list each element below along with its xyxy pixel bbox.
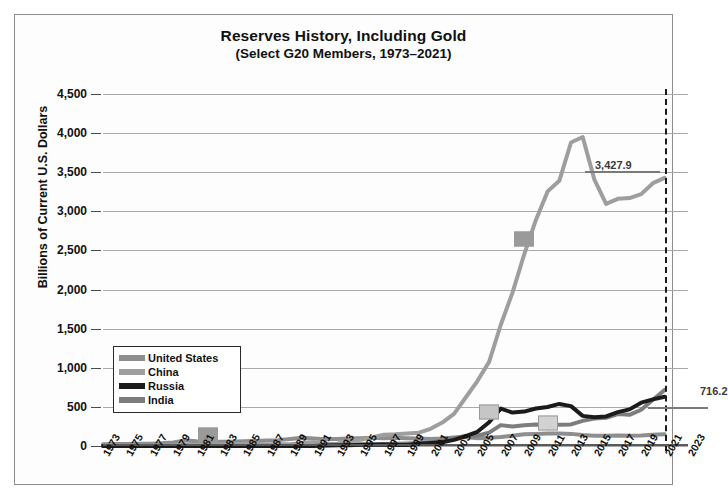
chart-title-block: Reserves History, Including Gold (Select… [15, 27, 672, 62]
y-axis-tick-label: 3,000 [57, 204, 87, 218]
data-point-marker [479, 404, 499, 419]
x-axis-tick-label: 2023 [685, 432, 707, 458]
page-title: Reserves History, Including Gold [15, 27, 672, 45]
y-axis-tick [91, 133, 101, 134]
y-axis-tick-label: 1,000 [57, 361, 87, 375]
legend-item[interactable]: Russia [119, 379, 235, 392]
chart-container: Reserves History, Including Gold (Select… [14, 14, 673, 485]
y-axis-tick [91, 172, 101, 173]
legend: United StatesChinaRussiaIndia [113, 346, 241, 413]
legend-item-label: United States [148, 352, 218, 364]
legend-item[interactable]: China [119, 365, 235, 378]
y-axis-tick [91, 407, 101, 408]
legend-swatch [119, 397, 145, 403]
legend-item-label: India [148, 394, 174, 406]
plot-area: 4,5004,0003,5003,0002,5002,0001,5001,000… [103, 94, 688, 446]
y-axis-tick-label: 4,000 [57, 126, 87, 140]
annotation-india-value: 716.2 [700, 385, 728, 397]
annotation-china-value: 3,427.9 [595, 159, 632, 171]
y-axis-tick [91, 290, 101, 291]
annotation-leader-line [648, 407, 708, 409]
y-axis-tick [91, 368, 101, 369]
legend-item[interactable]: India [119, 393, 235, 406]
chart-subtitle: (Select G20 Members, 1973–2021) [15, 45, 672, 62]
legend-item-label: China [148, 366, 179, 378]
y-axis-tick-label: 2,000 [57, 283, 87, 297]
reference-line-2021 [665, 89, 667, 451]
y-axis-tick-label: 3,500 [57, 165, 87, 179]
legend-item[interactable]: United States [119, 351, 235, 364]
y-axis-tick-label: 0 [80, 439, 87, 453]
y-axis-tick [91, 250, 101, 251]
legend-item-label: Russia [148, 380, 184, 392]
y-axis-tick-label: 500 [67, 400, 87, 414]
legend-swatch [119, 355, 145, 361]
data-point-marker [538, 415, 558, 430]
data-point-marker [514, 231, 534, 246]
annotation-leader-line [585, 171, 660, 173]
y-axis-tick [91, 94, 101, 95]
y-axis-tick [91, 446, 101, 447]
y-axis-tick-label: 1,500 [57, 322, 87, 336]
legend-swatch [119, 369, 145, 375]
y-axis-tick-label: 4,500 [57, 87, 87, 101]
y-axis-tick-label: 2,500 [57, 243, 87, 257]
y-axis-tick [91, 329, 101, 330]
y-axis-tick [91, 211, 101, 212]
y-axis-label: Billions of Current U.S. Dollars [36, 77, 50, 317]
legend-swatch [119, 383, 145, 389]
